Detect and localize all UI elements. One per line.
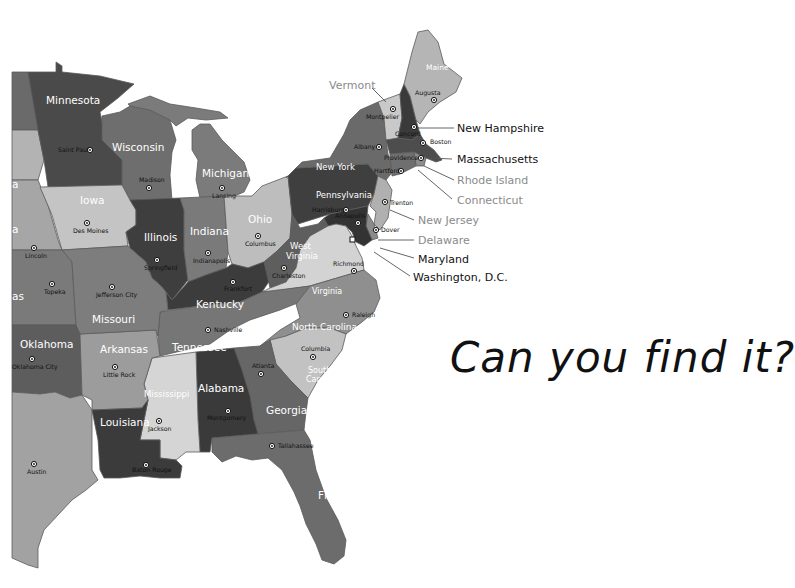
capital-label: Trenton — [389, 199, 413, 206]
label-west-virginia-2: Virginia — [286, 251, 318, 261]
capital-label: Charleston — [272, 272, 306, 279]
callout-vermont: Vermont — [329, 79, 376, 92]
label-new-york: New York — [316, 162, 355, 172]
label-alabama: Alabama — [198, 382, 244, 394]
capital-label: Annapolis — [335, 212, 365, 220]
label-pennsylvania: Pennsylvania — [316, 190, 372, 200]
state-oklahoma[interactable] — [12, 325, 82, 398]
label-missouri: Missouri — [92, 313, 135, 325]
capital-label: Raleigh — [352, 311, 375, 319]
capital-label: Indianapolis — [193, 257, 230, 265]
capital-label: Augusta — [415, 89, 441, 97]
callout-washington-dc: Washington, D.C. — [413, 271, 508, 284]
label-nebraska: a — [12, 223, 18, 235]
capital-label: Concord — [395, 130, 421, 137]
capital-label: Topeka — [43, 288, 66, 296]
label-south-carolina-2: Carolina — [306, 375, 339, 384]
label-arkansas: Arkansas — [100, 343, 148, 355]
callout-massachusetts: Massachusetts — [457, 153, 539, 166]
capital-label: Providence — [384, 154, 418, 161]
label-kansas: as — [12, 290, 24, 302]
capital-label: Montpelier — [366, 113, 399, 121]
label-michigan: Michigan — [202, 167, 249, 179]
capital-label: Nashville — [214, 326, 242, 333]
capital-label: Madison — [139, 176, 165, 183]
capital-label: Austin — [27, 468, 47, 475]
label-iowa: Iowa — [80, 194, 105, 206]
capital-label: Albany — [354, 143, 376, 151]
label-tennessee: Tennessee — [171, 341, 227, 353]
capital-label: Hartford — [374, 167, 400, 174]
label-florida: Florida — [318, 489, 354, 501]
capital-label: Frankfort — [224, 285, 252, 292]
capital-label: Baton Rouge — [132, 466, 172, 474]
callout-new-hampshire: New Hampshire — [457, 122, 544, 135]
capital-label: Richmond — [333, 260, 364, 267]
state-indiana[interactable] — [180, 196, 228, 282]
capital-label: Boston — [430, 138, 451, 145]
label-virginia: Virginia — [312, 287, 342, 296]
label-south-carolina-1: South — [308, 366, 331, 375]
capital-label: Saint Paul — [58, 146, 89, 153]
label-west-virginia-1: West — [290, 241, 312, 251]
callout-new-jersey: New Jersey — [418, 214, 480, 227]
label-north-carolina: North Carolina — [292, 322, 357, 332]
label-louisiana: Louisiana — [100, 416, 150, 428]
callout-connecticut: Connecticut — [457, 194, 524, 207]
label-kentucky: Kentucky — [196, 298, 244, 310]
capital-hartford[interactable]: Hartford — [374, 167, 404, 174]
capital-label: Jackson — [147, 425, 172, 433]
label-georgia: Georgia — [266, 404, 307, 416]
capital-providence[interactable]: Providence — [384, 154, 424, 161]
label-mississippi: Mississippi — [144, 389, 189, 399]
label-wisconsin: Wisconsin — [112, 141, 164, 153]
dc-marker-icon — [350, 237, 355, 242]
capital-label: Des Moines — [73, 227, 109, 234]
capital-label: Tallahassee — [277, 442, 314, 449]
callout-maryland: Maryland — [418, 253, 469, 266]
capital-label: Jefferson City — [95, 291, 138, 299]
label-ohio: Ohio — [248, 213, 272, 225]
capital-label: Lincoln — [25, 252, 47, 259]
capital-label: Little Rock — [103, 371, 136, 378]
label-indiana: Indiana — [190, 225, 229, 237]
capital-label: Dover — [381, 226, 400, 233]
capital-label: Oklahoma City — [12, 363, 58, 371]
label-illinois: Illinois — [144, 231, 177, 243]
capital-label: Columbia — [301, 345, 330, 352]
capital-saint-paul[interactable]: Saint Paul — [58, 146, 93, 153]
capital-boston[interactable]: Boston — [420, 138, 451, 146]
capital-label: Springfield — [144, 264, 177, 272]
label-south-dakota: a — [12, 178, 18, 190]
label-maine: Maine — [426, 63, 449, 72]
capital-label: Columbus — [245, 240, 276, 247]
label-oklahoma: Oklahoma — [20, 338, 73, 350]
page-title: Can you find it? — [450, 333, 795, 382]
callout-rhode-island: Rhode Island — [457, 174, 528, 187]
label-minnesota: Minnesota — [46, 94, 100, 106]
capital-label: Atlanta — [252, 362, 274, 369]
capital-label: Montgomery — [207, 414, 247, 422]
capital-label: Lansing — [212, 192, 236, 200]
callout-delaware: Delaware — [418, 234, 470, 247]
state-texas[interactable] — [12, 392, 98, 568]
